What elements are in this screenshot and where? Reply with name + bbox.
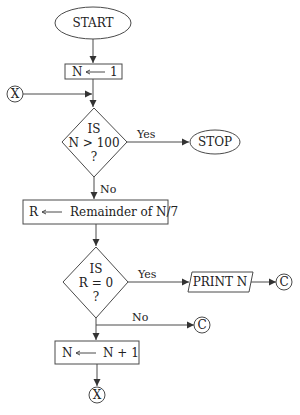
flowchart: START N 1 X IS N > 100 ? Yes STOP No R R…: [0, 0, 300, 415]
increment-right: N + 1: [103, 346, 139, 360]
decision1-line3: ?: [91, 150, 97, 164]
start-terminal: START: [55, 7, 131, 39]
connector-c-no: C: [194, 317, 210, 333]
connector-x-in-label: X: [11, 87, 20, 101]
init-process-box: N 1: [65, 64, 122, 79]
decision1-line1: IS: [88, 122, 101, 136]
remainder-left: R: [29, 205, 39, 219]
decision2-line1: IS: [90, 262, 103, 276]
init-right: 1: [110, 65, 118, 79]
decision-r-eq-0: IS R = 0 ?: [63, 247, 128, 318]
print-label: PRINT N: [193, 275, 248, 289]
decision1-line2: N > 100: [68, 136, 119, 150]
init-left: N: [72, 65, 83, 79]
remainder-right: Remainder of N/7: [70, 205, 178, 219]
connector-x-out-label: X: [93, 388, 102, 402]
increment-process-box: N N + 1: [55, 341, 139, 364]
connector-x-out: X: [89, 387, 105, 403]
decision-n-gt-100: IS N > 100 ?: [62, 108, 127, 177]
decision1-no-label: No: [100, 183, 117, 196]
connector-c-yes-label: C: [279, 275, 288, 289]
stop-terminal: STOP: [190, 130, 240, 154]
decision2-yes-label: Yes: [137, 268, 157, 281]
remainder-process-box: R Remainder of N/7: [23, 200, 178, 224]
decision2-line2: R = 0: [79, 276, 113, 290]
connector-x-in: X: [7, 86, 23, 102]
decision1-yes-label: Yes: [136, 128, 156, 141]
start-label: START: [72, 16, 113, 30]
decision2-no-label: No: [132, 311, 149, 324]
connector-c-yes: C: [276, 274, 292, 290]
print-io-box: PRINT N: [188, 272, 253, 292]
increment-left: N: [62, 346, 73, 360]
decision2-line3: ?: [93, 290, 99, 304]
stop-label: STOP: [198, 135, 232, 149]
connector-c-no-label: C: [197, 318, 206, 332]
